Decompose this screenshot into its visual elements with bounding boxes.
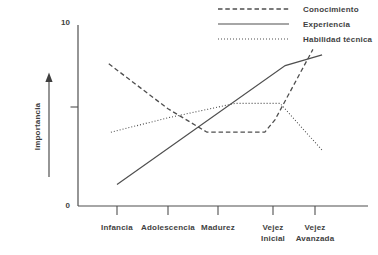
legend-line-sample-dotted — [217, 34, 290, 44]
x-axis-labels: InfanciaAdolescenciaMadurezVejez Inicial… — [0, 222, 378, 252]
y-axis-max-label: 10 — [52, 18, 70, 28]
up-arrow-icon — [45, 73, 52, 178]
legend-label: Experiencia — [303, 20, 350, 29]
chart-figure: 10 0 Importancia ConocimientoExperiencia… — [0, 0, 378, 255]
legend-line-sample-solid — [217, 19, 290, 29]
series-line-dotted — [111, 103, 322, 150]
series-line-dashed — [109, 49, 313, 132]
series-line-solid — [117, 55, 322, 185]
legend-item: Experiencia — [217, 17, 377, 31]
legend-item: Habilidad técnica — [217, 32, 377, 46]
x-axis-ticks — [117, 206, 315, 215]
legend: ConocimientoExperienciaHabilidad técnica — [217, 2, 377, 47]
legend-line-sample-dashed — [217, 4, 290, 14]
legend-label: Habilidad técnica — [303, 35, 372, 44]
legend-label: Conocimiento — [303, 5, 359, 14]
x-tick-label: Vejez Avanzada — [283, 222, 347, 244]
y-axis-min-label: 0 — [52, 201, 70, 211]
legend-item: Conocimiento — [217, 2, 377, 16]
y-axis-title: Importancia — [33, 103, 42, 151]
series-lines — [109, 49, 322, 184]
